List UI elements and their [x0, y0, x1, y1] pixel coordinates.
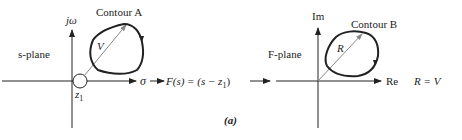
vector-v-label: V: [97, 40, 105, 52]
contour-b: [326, 31, 379, 76]
im-axis-label: Im: [312, 10, 325, 22]
zero-z1-marker: [73, 74, 87, 88]
contour-b-label: Contour B: [351, 18, 397, 30]
zero-z1-label: z1: [74, 88, 83, 103]
f-plane-label: F-plane: [268, 48, 302, 60]
s-plane-vertical-axis-label: jω: [64, 14, 77, 26]
s-plane-group: jω Contour A V s-plane σ z1: [2, 6, 147, 128]
diagram-canvas: jω Contour A V s-plane σ z1 F(s) = (s − …: [0, 0, 462, 140]
figure-caption: (a): [224, 114, 237, 127]
r-equals-v-equation: R = V: [413, 75, 442, 87]
f-plane-group: Im Contour B R F-plane Re R = V: [268, 10, 442, 128]
vector-r-label: R: [336, 42, 344, 54]
mapping-group: F(s) = (s − z1) (a): [150, 75, 270, 127]
contour-a-label: Contour A: [96, 6, 142, 18]
re-axis-label: Re: [386, 75, 398, 87]
s-plane-label: s-plane: [18, 48, 50, 60]
mapping-function-label: F(s) = (s − z1): [165, 75, 230, 90]
sigma-axis-label: σ: [140, 74, 147, 88]
